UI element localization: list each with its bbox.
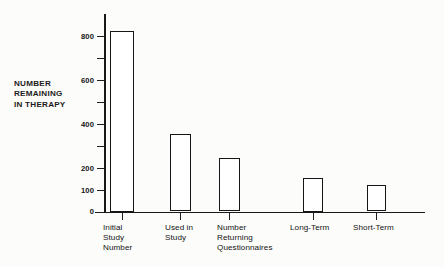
y-tick-600	[97, 80, 104, 81]
x-label-line: Questionnaires	[217, 243, 273, 253]
y-tick-800	[97, 36, 104, 37]
x-label-short-term: Short-Term	[353, 223, 394, 233]
x-tick-initial-study-number	[122, 213, 123, 220]
x-label-long-term: Long-Term	[290, 223, 329, 233]
x-label-line: Long-Term	[290, 223, 329, 233]
x-label-used-in-study: Used in Study	[165, 223, 193, 243]
y-tick-label-group: 800 600 400 200 100 0	[62, 0, 94, 267]
bar-number-returning-questionnaires[interactable]	[219, 158, 240, 212]
bar-used-in-study[interactable]	[170, 134, 191, 212]
x-tick-number-returning-questionnaires	[229, 213, 230, 220]
x-label-line: Study	[165, 233, 193, 243]
y-axis-line	[104, 14, 106, 213]
y-tick-label-600: 600	[64, 76, 94, 85]
x-label-line: Short-Term	[353, 223, 394, 233]
bar-short-term[interactable]	[367, 185, 386, 211]
y-tick-500	[97, 102, 104, 103]
x-label-line: Returning	[217, 233, 273, 243]
x-label-line: Number	[103, 243, 132, 253]
y-tick-label-100: 100	[64, 186, 94, 195]
x-label-number-returning-questionnaires: Number Returning Questionnaires	[217, 223, 273, 253]
x-tick-long-term	[313, 213, 314, 220]
y-tick-100	[97, 190, 104, 191]
x-tick-short-term	[376, 213, 377, 220]
plot-area: 800 600 400 200 100 0 Initial Study Numb…	[0, 0, 444, 267]
x-tick-used-in-study	[180, 213, 181, 220]
y-tick-700	[97, 58, 104, 59]
y-tick-label-200: 200	[64, 164, 94, 173]
y-tick-400	[97, 124, 104, 125]
bar-chart-figure: NUMBER REMAINING IN THERAPY 800 600 400 …	[0, 0, 444, 267]
x-label-line: Study	[103, 233, 132, 243]
y-tick-200	[97, 168, 104, 169]
y-tick-300	[97, 146, 104, 147]
bar-initial-study-number[interactable]	[110, 31, 134, 212]
y-tick-label-400: 400	[64, 120, 94, 129]
x-label-line: Number	[217, 223, 273, 233]
y-tick-0	[97, 212, 104, 213]
y-tick-label-0: 0	[64, 207, 94, 216]
x-label-initial-study-number: Initial Study Number	[103, 223, 132, 253]
x-label-line: Used in	[165, 223, 193, 233]
x-label-line: Initial	[103, 223, 132, 233]
y-tick-label-800: 800	[64, 32, 94, 41]
bar-long-term[interactable]	[303, 178, 323, 212]
